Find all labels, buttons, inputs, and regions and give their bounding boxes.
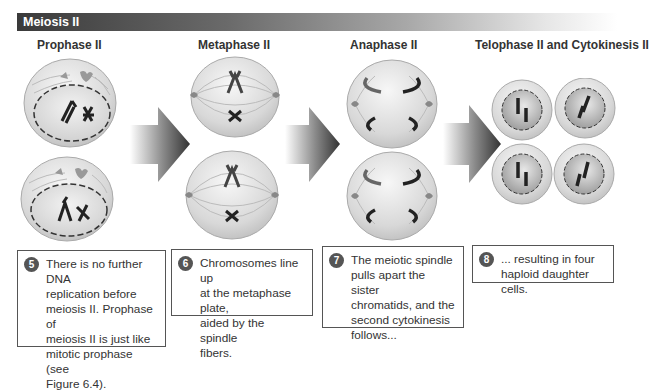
caption-text: The meiotic spindle pulls apart the sist… [351, 253, 455, 342]
cell-icon [347, 60, 437, 148]
daughter-cell-icon [492, 80, 552, 140]
caption-box-prophase: 5 There is no further DNA replication be… [17, 250, 166, 347]
caption-text: ... resulting in four haploid daughter c… [501, 252, 595, 296]
step-number-badge: 8 [479, 252, 494, 267]
daughter-cell-icon [554, 144, 614, 204]
caption-text: There is no further DNA replication befo… [46, 257, 153, 391]
metaphase-cells-illustration [180, 55, 290, 245]
daughter-cell-icon [492, 144, 552, 204]
right-arrow-icon [285, 107, 340, 182]
caption-box-anaphase: 7 The meiotic spindle pulls apart the si… [322, 246, 464, 328]
phase-title-prophase: Prophase II [37, 38, 102, 52]
cell-icon [347, 152, 437, 240]
phase-title-metaphase: Metaphase II [198, 38, 270, 52]
step-number-badge: 5 [24, 257, 39, 272]
caption-box-telophase: 8 ... resulting in four haploid daughter… [472, 245, 614, 283]
cell-icon [185, 151, 279, 239]
section-banner: Meiosis II [17, 13, 617, 31]
telophase-cells-illustration [490, 78, 620, 208]
anaphase-cells-illustration [335, 58, 455, 248]
caption-box-metaphase: 6 Chromosomes line up at the metaphase p… [171, 249, 313, 316]
daughter-cell-icon [555, 78, 615, 138]
cell-icon [24, 59, 116, 147]
step-number-badge: 6 [178, 256, 193, 271]
caption-text: Chromosomes line up at the metaphase pla… [200, 256, 298, 360]
cell-icon [21, 157, 113, 241]
phase-title-telophase: Telophase II and Cytokinesis II [475, 38, 649, 52]
prophase-cells-illustration [10, 55, 130, 245]
banner-title: Meiosis II [23, 15, 79, 29]
cell-icon [190, 57, 280, 137]
phase-title-anaphase: Anaphase II [350, 38, 417, 52]
step-number-badge: 7 [329, 253, 344, 268]
